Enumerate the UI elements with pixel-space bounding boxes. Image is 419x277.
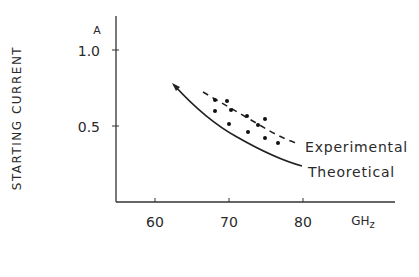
y-tick-label-05: 0.5 bbox=[78, 119, 100, 135]
theoretical-curve bbox=[174, 85, 302, 166]
measured-points bbox=[213, 98, 280, 145]
y-axis-label: STARTING CURRENT bbox=[10, 46, 24, 190]
y-tick-label-1: 1.0 bbox=[78, 43, 100, 59]
x-tick-label-60: 60 bbox=[146, 214, 164, 230]
legend-experimental: Experimental bbox=[305, 139, 408, 155]
x-tick-label-70: 70 bbox=[220, 214, 238, 230]
x-tick-label-80: 80 bbox=[294, 214, 312, 230]
x-axis-label: GHz bbox=[351, 214, 375, 230]
chart: 60 70 80 1.0 0.5 A GHz STARTING CURRENT … bbox=[0, 0, 419, 277]
legend-theoretical: Theoretical bbox=[307, 164, 395, 180]
y-unit-label: A bbox=[93, 24, 101, 37]
